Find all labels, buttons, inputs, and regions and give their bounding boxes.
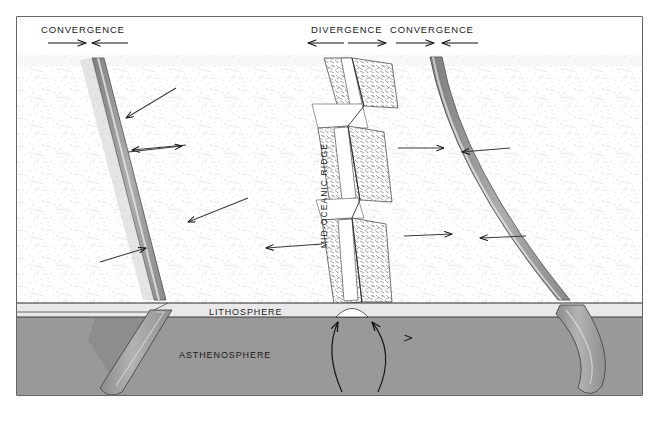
label-divergence: DIVERGENCE bbox=[311, 24, 382, 35]
label-band bbox=[17, 17, 642, 55]
label-lithosphere: LITHOSPHERE bbox=[209, 307, 282, 317]
diagram-canvas bbox=[0, 0, 659, 426]
label-convergence-left: CONVERGENCE bbox=[41, 24, 125, 35]
label-convergence-right: CONVERGENCE bbox=[390, 24, 474, 35]
plate-tectonics-diagram: CONVERGENCE DIVERGENCE CONVERGENCE MID-O… bbox=[0, 0, 659, 426]
label-mid-oceanic-ridge: MID-OCEANIC RIDGE bbox=[319, 143, 329, 248]
label-asthenosphere: ASTHENOSPHERE bbox=[179, 350, 271, 360]
